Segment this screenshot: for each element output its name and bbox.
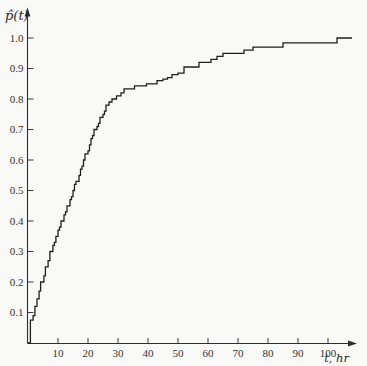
y-tick-label: 0.2 [10,276,24,288]
x-tick-label: 60 [203,347,215,359]
x-tick-label: 30 [113,347,125,359]
x-tick-label: 20 [83,347,95,359]
y-tick-label: 0.1 [10,306,24,318]
x-tick-label: 10 [53,347,65,359]
x-tick-label: 70 [233,347,245,359]
x-tick-label: 50 [173,347,185,359]
y-tick-label: 0.3 [10,245,24,257]
y-tick-label: 0.5 [10,184,24,196]
x-axis-arrow-icon [348,341,357,347]
chart-canvas: 0.10.20.30.40.50.60.70.80.91.01020304050… [0,0,367,366]
axis-ticks: 0.10.20.30.40.50.60.70.80.91.01020304050… [10,32,337,359]
y-tick-label: 0.7 [10,123,24,135]
y-axis-label: p̂(t) [5,8,29,23]
x-tick-label: 40 [143,347,155,359]
ecdf-step-curve [28,38,352,343]
y-tick-label: 0.6 [10,154,24,166]
y-tick-label: 1.0 [10,32,24,44]
x-tick-label: 90 [293,347,305,359]
y-tick-label: 0.9 [10,62,24,74]
axes [25,8,357,347]
y-tick-label: 0.4 [10,215,24,227]
data-series [28,38,352,343]
ecdf-figure: 0.10.20.30.40.50.60.70.80.91.01020304050… [0,0,367,366]
y-tick-label: 0.8 [10,93,24,105]
x-axis-label: t, hr [324,351,350,365]
x-tick-label: 80 [263,347,275,359]
